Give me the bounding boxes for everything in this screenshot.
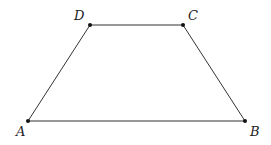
label-d: D <box>73 8 85 23</box>
trapezoid-diagram: A B C D <box>0 0 271 145</box>
label-a: A <box>15 124 25 139</box>
point-b <box>243 119 247 123</box>
point-a <box>26 119 30 123</box>
trapezoid-outline <box>28 25 245 121</box>
label-c: C <box>188 8 198 23</box>
point-d <box>88 23 92 27</box>
label-b: B <box>249 124 260 139</box>
point-c <box>181 23 185 27</box>
